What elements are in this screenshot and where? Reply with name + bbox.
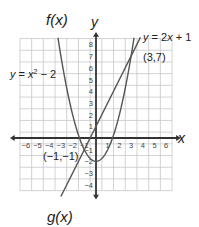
svg-text:−4: −4 [84,181,93,190]
f-equation-label: y = x2 − 2 [9,68,56,80]
svg-text:−4: −4 [45,141,54,150]
svg-text:7: 7 [89,52,93,61]
svg-text:2: 2 [117,141,121,150]
graph: −6−5−4−3−2−1123456−4−3−2−112345678 f(x) … [0,0,199,227]
svg-text:1: 1 [89,122,93,131]
f-name-label: f(x) [46,11,68,28]
svg-text:−2: −2 [84,157,93,166]
y-axis-label: y [90,14,99,30]
svg-text:−5: −5 [33,141,42,150]
svg-text:5: 5 [89,76,93,85]
svg-text:−6: −6 [22,141,31,150]
x-axis-label: x [177,130,186,146]
g-equation-label: y = 2x + 1 [142,31,191,43]
g-name-label: g(x) [47,208,73,225]
svg-text:−3: −3 [84,169,93,178]
svg-text:4: 4 [89,87,93,96]
curves [58,37,140,196]
svg-text:−2: −2 [68,141,77,150]
point-label-3-7: (3,7) [143,51,166,63]
svg-text:6: 6 [89,64,93,73]
point-label-neg1-neg1: (−1,−1) [43,150,78,162]
svg-text:4: 4 [141,141,145,150]
svg-text:3: 3 [89,99,93,108]
svg-text:−3: −3 [57,141,66,150]
svg-text:8: 8 [89,40,93,49]
svg-text:3: 3 [129,141,133,150]
svg-text:5: 5 [152,141,156,150]
svg-text:2: 2 [89,111,93,120]
svg-text:6: 6 [164,141,168,150]
